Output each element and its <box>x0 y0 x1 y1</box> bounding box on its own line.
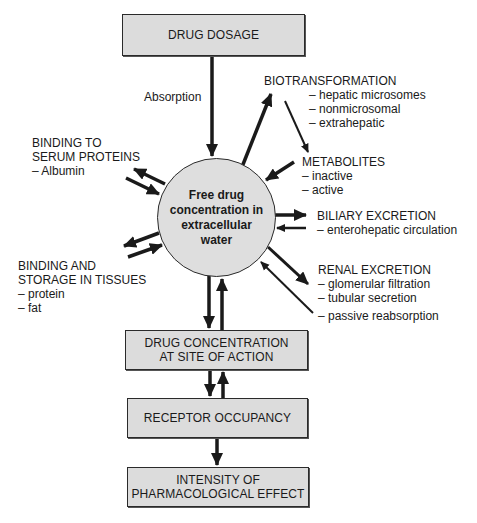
biliary-item: – enterohepatic circulation <box>317 223 457 237</box>
diagram-canvas: DRUG DOSAGE DRUG CONCENTRATION AT SITE O… <box>0 0 477 523</box>
site-of-action-label-2: AT SITE OF ACTION <box>160 350 274 364</box>
biotransformation-title: BIOTRANSFORMATION <box>264 74 426 88</box>
serum-binding-title-2: SERUM PROTEINS <box>32 150 140 164</box>
tissue-binding-title-1: BINDING AND <box>18 259 146 273</box>
tissue-binding-item: – fat <box>18 301 146 315</box>
tissue-binding-out-arrow <box>124 233 159 246</box>
center-line-4: water <box>170 233 263 248</box>
renal-item: – glomerular filtration <box>318 277 431 291</box>
metabolites-group: METABOLITES – inactive – active <box>302 155 385 197</box>
center-line-3: extracellular <box>170 218 263 233</box>
site-of-action-box: DRUG CONCENTRATION AT SITE OF ACTION <box>125 330 308 370</box>
drug-dosage-label: DRUG DOSAGE <box>168 28 259 42</box>
renal-excretion-arrow <box>268 247 308 284</box>
receptor-occupancy-label: RECEPTOR OCCUPANCY <box>144 411 291 425</box>
biliary-group: BILIARY EXCRETION – enterohepatic circul… <box>317 209 457 237</box>
free-drug-circle: Free drug concentration in extracellular… <box>157 158 276 277</box>
absorption-label: Absorption <box>144 90 201 104</box>
tissue-binding-in-arrow <box>128 245 162 257</box>
site-of-action-label-1: DRUG CONCENTRATION <box>144 336 288 350</box>
biotransformation-item: – hepatic microsomes <box>264 88 426 102</box>
passive-reabsorption-label: – passive reabsorption <box>318 309 439 323</box>
tissue-binding-group: BINDING AND STORAGE IN TISSUES – protein… <box>18 259 146 315</box>
pharmacological-effect-box: INTENSITY OF PHARMACOLOGICAL EFFECT <box>127 467 309 507</box>
metabolites-title: METABOLITES <box>302 155 385 169</box>
center-line-2: concentration in <box>170 203 263 218</box>
serum-binding-group: BINDING TO SERUM PROTEINS – Albumin <box>32 136 140 178</box>
renal-item: – tubular secretion <box>318 291 431 305</box>
biotransformation-group: BIOTRANSFORMATION – hepatic microsomes –… <box>264 74 426 130</box>
serum-binding-title-1: BINDING TO <box>32 136 140 150</box>
metabolites-arrow <box>266 162 294 180</box>
reabsorption-arrow <box>261 262 313 313</box>
effect-label-2: PHARMACOLOGICAL EFFECT <box>131 487 304 501</box>
serum-binding-item: – Albumin <box>32 164 140 178</box>
receptor-occupancy-box: RECEPTOR OCCUPANCY <box>127 398 308 438</box>
biliary-title: BILIARY EXCRETION <box>317 209 457 223</box>
renal-group: RENAL EXCRETION – glomerular filtration … <box>318 263 431 305</box>
effect-label-1: INTENSITY OF <box>176 473 260 487</box>
center-line-1: Free drug <box>170 188 263 203</box>
metabolites-item: – active <box>302 183 385 197</box>
renal-title: RENAL EXCRETION <box>318 263 431 277</box>
biotransformation-item: – nonmicrosomal <box>264 102 426 116</box>
drug-dosage-box: DRUG DOSAGE <box>122 14 305 56</box>
tissue-binding-title-2: STORAGE IN TISSUES <box>18 273 146 287</box>
metabolites-item: – inactive <box>302 169 385 183</box>
biotransformation-item: – extrahepatic <box>264 116 426 130</box>
tissue-binding-item: – protein <box>18 287 146 301</box>
